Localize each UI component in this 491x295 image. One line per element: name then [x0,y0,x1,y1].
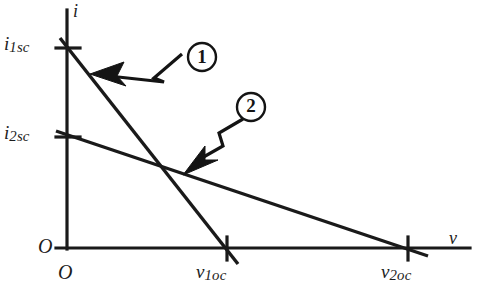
tick-label-i1sc-sub: 1sc [9,39,29,55]
y-axis-label: i [73,2,78,20]
tick-label-i2sc: i2sc [4,123,30,142]
callout-2-arrow [183,119,243,175]
origin-label-left: O [38,236,52,256]
callout-1-arrow [90,54,182,86]
tick-label-i1sc: i1sc [4,34,30,53]
figure-canvas: i v i1sc i2sc O O v1oc v2oc 1 2 [0,0,491,295]
tick-label-v2oc: v2oc [381,262,411,281]
tick-label-v1oc: v1oc [196,262,226,281]
tick-label-v2oc-sub: 2oc [389,267,411,283]
callout-2-label: 2 [239,96,263,115]
load-line-2 [56,131,428,256]
callout-1-label: 1 [190,47,214,66]
tick-label-v1oc-sub: 1oc [204,267,226,283]
tick-label-i2sc-sub: 2sc [9,128,29,144]
x-axis-label: v [449,229,457,247]
iv-characteristic-diagram [0,0,491,295]
origin-label-below: O [58,262,72,282]
